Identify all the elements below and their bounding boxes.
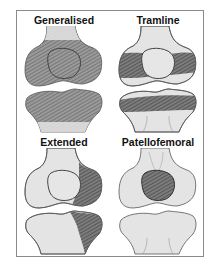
- knee-diagram-patellofemoral: [111, 148, 205, 255]
- panel-extended: Extended: [17, 133, 111, 255]
- knee-diagram-tramline: [111, 26, 205, 133]
- panel-title: Tramline: [111, 14, 205, 26]
- patella: [142, 170, 175, 200]
- panel-generalised: Generalised: [17, 11, 111, 133]
- knee-diagram-extended: [17, 148, 111, 255]
- patella: [48, 48, 81, 78]
- patella: [142, 48, 175, 78]
- knee-diagram-generalised: [17, 26, 111, 133]
- tibia: [120, 211, 196, 254]
- patella: [48, 170, 81, 200]
- panel-title: Extended: [17, 136, 111, 148]
- panel-title: Generalised: [17, 14, 111, 26]
- figure-frame: Generalised Tramline Extended: [16, 10, 204, 257]
- panel-patellofemoral: Patellofemoral: [111, 133, 205, 255]
- panel-tramline: Tramline: [111, 11, 205, 133]
- panel-title: Patellofemoral: [111, 136, 205, 148]
